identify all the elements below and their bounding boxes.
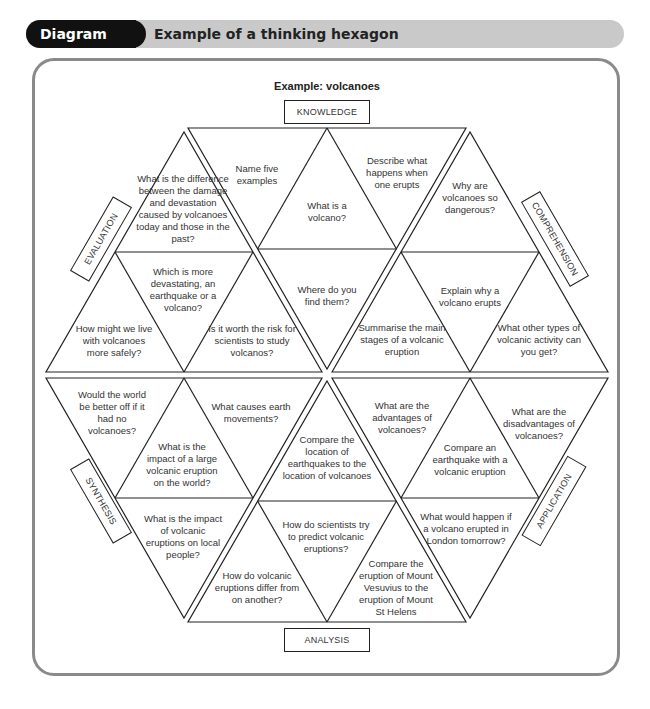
cell-knowledge-4: Where do you find them? — [297, 284, 357, 308]
cell-synthesis-1: Would the world be better off if it had … — [77, 389, 147, 437]
cell-application-4: What would happen if a volcano erupted i… — [418, 511, 514, 547]
cell-evaluation-4: Is it worth the risk for scientists to s… — [204, 323, 300, 359]
cell-evaluation-1: What is the difference between the damag… — [135, 173, 231, 245]
cell-comprehension-4: What other types of volcanic activity ca… — [494, 322, 584, 358]
cell-application-1: What are the advantages of volcanoes? — [362, 400, 442, 436]
cell-analysis-3: How do volcanic eruptions differ from on… — [212, 570, 302, 606]
cell-application-3: Compare an earthquake with a volcanic er… — [425, 442, 515, 478]
cell-synthesis-3: What is the impact of a large volcanic e… — [146, 441, 218, 489]
example-title: Example: volcanoes — [274, 80, 380, 92]
cell-evaluation-3: How might we live with volcanoes more sa… — [74, 323, 154, 359]
label-analysis: ANALYSIS — [284, 628, 370, 652]
cell-comprehension-2: Explain why a volcano erupts — [430, 285, 510, 309]
label-knowledge: KNOWLEDGE — [284, 100, 370, 124]
cell-analysis-1: Compare the location of earthquakes to t… — [282, 434, 372, 482]
cell-comprehension-3: Summarise the main stages of a volcanic … — [352, 322, 452, 358]
cell-comprehension-1: Why are volcanoes so dangerous? — [435, 180, 505, 216]
cell-application-2: What are the disadvantages of volcanoes? — [499, 406, 579, 442]
cell-synthesis-4: What is the impact of volcanic eruptions… — [143, 513, 223, 561]
cell-analysis-4: Compare the eruption of Mount Vesuvius t… — [357, 558, 435, 618]
cell-knowledge-3: Describe what happens when one erupts — [357, 155, 437, 191]
cell-knowledge-2: What is a volcano? — [297, 200, 357, 224]
cell-analysis-2: How do scientists try to predict volcani… — [281, 519, 371, 555]
cell-synthesis-2: What causes earth movements? — [211, 401, 291, 425]
cell-knowledge-1: Name five examples — [222, 163, 292, 187]
cell-evaluation-2: Which is more devastating, an earthquake… — [147, 266, 219, 314]
